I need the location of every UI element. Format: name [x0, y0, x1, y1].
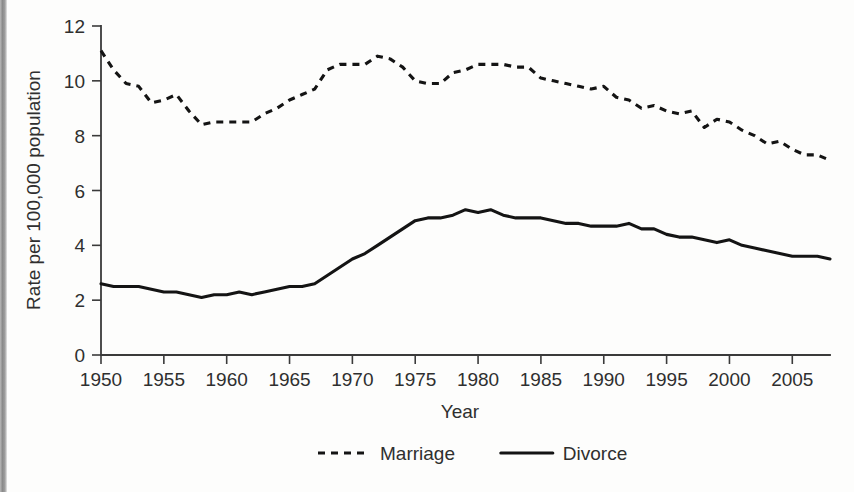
- x-tick-label: 1975: [394, 369, 436, 390]
- chart-legend: MarriageDivorce: [318, 443, 627, 464]
- x-tick-label: 2000: [708, 369, 750, 390]
- y-tick-label: 12: [64, 16, 85, 37]
- x-tick-label: 1980: [457, 369, 499, 390]
- legend-label-divorce: Divorce: [563, 443, 627, 464]
- legend-label-marriage: Marriage: [380, 443, 455, 464]
- x-tick-label: 1960: [206, 369, 248, 390]
- x-tick-label: 1970: [331, 369, 373, 390]
- series-line-divorce: [101, 210, 830, 298]
- y-tick-label: 8: [74, 126, 85, 147]
- x-axis: 1950195519601965197019751980198519901995…: [80, 355, 830, 390]
- y-tick-label: 2: [74, 290, 85, 311]
- chart-svg: 024681012 195019551960196519701975198019…: [0, 0, 854, 492]
- y-tick-label: 6: [74, 181, 85, 202]
- x-tick-label: 1950: [80, 369, 122, 390]
- y-axis: 024681012: [64, 16, 101, 366]
- y-tick-label: 0: [74, 345, 85, 366]
- x-tick-label: 1995: [645, 369, 687, 390]
- x-tick-label: 1965: [268, 369, 310, 390]
- x-tick-label: 2005: [771, 369, 813, 390]
- chart-page: 024681012 195019551960196519701975198019…: [0, 0, 854, 492]
- x-tick-label: 1990: [583, 369, 625, 390]
- x-axis-title: Year: [441, 401, 480, 422]
- series-line-marriage: [101, 51, 830, 161]
- y-axis-title: Rate per 100,000 population: [23, 70, 44, 310]
- line-chart: 024681012 195019551960196519701975198019…: [0, 0, 854, 492]
- x-tick-label: 1985: [520, 369, 562, 390]
- chart-series-group: [101, 51, 830, 298]
- y-tick-label: 4: [74, 235, 85, 256]
- x-tick-label: 1955: [143, 369, 185, 390]
- y-tick-label: 10: [64, 71, 85, 92]
